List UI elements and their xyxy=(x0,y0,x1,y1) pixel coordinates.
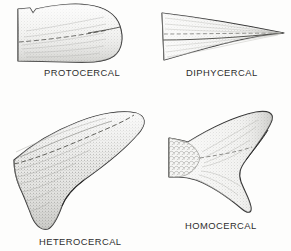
heterocercal-fin-shading xyxy=(14,112,144,230)
panel-heterocercal xyxy=(14,112,144,230)
panel-label-homocercal: HOMOCERCAL xyxy=(185,221,257,231)
protocercal-fin-shading xyxy=(18,4,122,62)
panel-protocercal xyxy=(18,4,122,62)
panel-diphycercal xyxy=(162,13,284,60)
panel-label-protocercal: PROTOCERCAL xyxy=(44,68,120,78)
panel-homocercal xyxy=(169,111,272,212)
panel-label-diphycercal: DIPHYCERCAL xyxy=(186,68,258,78)
caudal-fin-illustration xyxy=(0,0,291,251)
figure-root: PROTOCERCAL DIPHYCERCAL HETEROCERCAL HOM… xyxy=(0,0,291,251)
panel-label-heterocercal: HETEROCERCAL xyxy=(39,237,122,247)
